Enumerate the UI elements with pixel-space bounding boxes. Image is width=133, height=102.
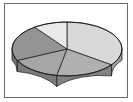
pie-chart-svg: Slice 1 35%Slice 2 18%Slice 3 15%Slice 4… (0, 0, 133, 102)
pie-chart-plot-area: Slice 1 35%Slice 2 18%Slice 3 15%Slice 4… (0, 0, 133, 102)
pie-chart-figure: Slice 1 35%Slice 2 18%Slice 3 15%Slice 4… (0, 0, 133, 102)
